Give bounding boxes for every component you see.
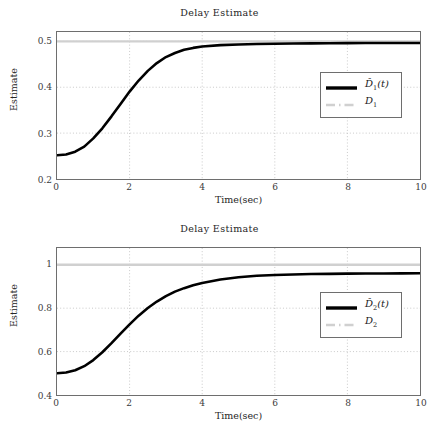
legend-row-estimate: D̂1(t) [325, 76, 396, 93]
x-tick-label: 0 [53, 182, 59, 192]
y-tick-labels-bottom: 0.4 0.6 0.8 1 [0, 247, 52, 396]
legend-row-estimate: D̂2(t) [325, 296, 396, 313]
chart-title-bottom: Delay Estimate [0, 223, 439, 234]
y-tick-labels-top: 0.2 0.3 0.4 0.5 [0, 31, 52, 180]
x-tick-label: 8 [345, 182, 351, 192]
legend-row-reference: D2 [325, 313, 396, 330]
x-tick-label: 10 [415, 398, 426, 408]
y-tick-label: 1 [2, 259, 52, 269]
legend-swatch-dashed [325, 96, 358, 108]
x-axis-title-top: Time(sec) [56, 194, 421, 205]
chart-panel-top: Delay Estimate Estimate 0.2 0.3 0.4 0.5 [0, 0, 439, 215]
grid-vertical [130, 32, 348, 179]
y-tick-label: 0.4 [2, 82, 52, 92]
x-tick-label: 0 [53, 398, 59, 408]
legend-row-reference: D1 [325, 93, 396, 110]
legend-label-reference: D2 [365, 315, 377, 329]
x-tick-label: 2 [126, 182, 132, 192]
y-tick-label: 0.8 [2, 303, 52, 313]
y-tick-label: 0.5 [2, 36, 52, 46]
legend-swatch-solid [325, 79, 358, 91]
x-tick-label: 6 [272, 398, 278, 408]
legend-label-estimate: D̂2(t) [365, 298, 389, 312]
legend-top: D̂1(t) D1 [320, 72, 402, 118]
figure-container: Delay Estimate Estimate 0.2 0.3 0.4 0.5 [0, 0, 439, 431]
legend-bottom: D̂2(t) D2 [320, 292, 402, 338]
x-tick-label: 6 [272, 182, 278, 192]
grid-vertical [130, 248, 348, 395]
x-tick-label: 10 [415, 182, 426, 192]
legend-label-estimate: D̂1(t) [365, 78, 389, 92]
y-tick-label: 0.2 [2, 175, 52, 185]
y-tick-label: 0.3 [2, 129, 52, 139]
legend-swatch-dashed [325, 316, 358, 328]
chart-panel-bottom: Delay Estimate Estimate 0.4 0.6 0.8 1 [0, 216, 439, 431]
legend-swatch-solid [325, 299, 358, 311]
y-tick-label: 0.4 [2, 391, 52, 401]
x-axis-title-bottom: Time(sec) [56, 410, 421, 421]
legend-label-reference: D1 [365, 95, 377, 109]
x-tick-label: 4 [199, 398, 205, 408]
x-tick-label: 8 [345, 398, 351, 408]
x-tick-label: 2 [126, 398, 132, 408]
chart-title-top: Delay Estimate [0, 7, 439, 18]
x-tick-label: 4 [199, 182, 205, 192]
y-tick-label: 0.6 [2, 347, 52, 357]
